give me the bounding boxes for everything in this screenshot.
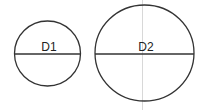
label-d2: D2 [138, 41, 153, 53]
diagram-canvas [0, 0, 211, 110]
label-d1: D1 [41, 41, 56, 53]
